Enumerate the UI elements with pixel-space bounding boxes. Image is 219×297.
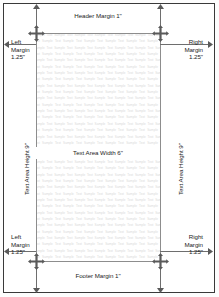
guide-line-bottom: [36, 261, 160, 262]
left-margin-label-top: Left Margin 1.25": [11, 38, 39, 61]
arrow-head-icon: [156, 284, 165, 293]
footer-margin-label: Footer Margin 1": [36, 272, 160, 280]
arrow-head-icon: [204, 40, 213, 49]
margin-diagram-page: Sample Text Sample Text Sample Text Samp…: [0, 0, 219, 297]
arrow-head-icon: [204, 247, 213, 256]
guide-line-right: [160, 33, 161, 262]
guide-line-top: [36, 33, 160, 34]
left-margin-label-bottom: Left Margin 1.25": [11, 233, 39, 256]
right-margin-label-top: Right Margin 1.25": [170, 38, 203, 61]
text-area-width-label: Text Area Width 6": [36, 147, 160, 159]
right-margin-label-bottom: Right Margin 1.25": [170, 233, 203, 256]
text-area-height-label-left: Text Area Height 9": [23, 143, 30, 195]
header-margin-label: Header Margin 1": [36, 12, 160, 20]
arrow-head-icon: [32, 284, 41, 293]
text-area-height-label-right: Text Area Height 9": [177, 143, 184, 195]
